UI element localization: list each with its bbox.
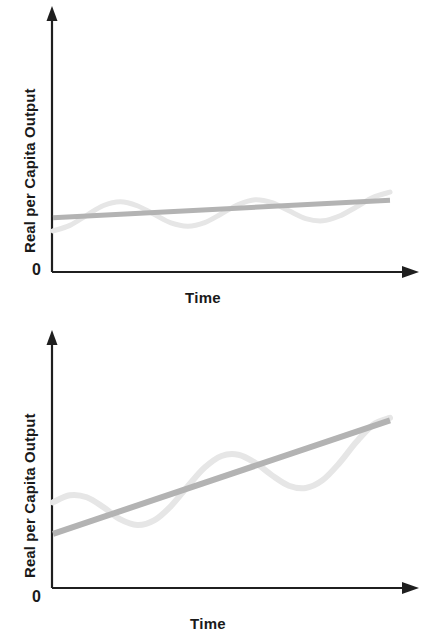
y-axis-arrowhead bbox=[47, 6, 58, 21]
y-axis-label: Real per Capita Output bbox=[22, 413, 37, 578]
chart-panel-top: Real per Capita Output 0 Time bbox=[0, 0, 430, 316]
y-axis-arrowhead bbox=[47, 330, 58, 345]
x-axis-arrowhead bbox=[402, 582, 419, 594]
chart-plot-top bbox=[0, 0, 430, 316]
axes-bottom bbox=[47, 330, 420, 594]
x-axis-arrowhead bbox=[402, 266, 419, 278]
chart-plot-bottom bbox=[0, 316, 430, 632]
x-axis-label: Time bbox=[190, 616, 226, 631]
y-axis-label: Real per Capita Output bbox=[22, 88, 37, 253]
x-axis-label: Time bbox=[185, 290, 221, 305]
origin-label: 0 bbox=[32, 589, 41, 605]
axes-top bbox=[47, 6, 420, 278]
series-cycle-line bbox=[53, 418, 390, 525]
chart-panel-bottom: Real per Capita Output 0 Time bbox=[0, 316, 430, 632]
series-cycle-line bbox=[53, 192, 390, 231]
origin-label: 0 bbox=[32, 262, 41, 278]
series-trend-line bbox=[53, 420, 390, 533]
